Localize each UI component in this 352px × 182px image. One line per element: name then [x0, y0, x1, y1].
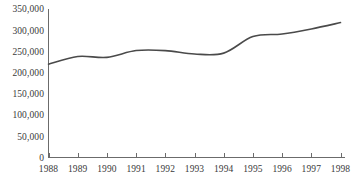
- y-axis-tick-label: 150,000: [12, 89, 44, 99]
- y-axis-tick-label: 0: [39, 153, 44, 163]
- x-axis-tick-labels: 1988198919901991199219931994199519961997…: [39, 164, 351, 174]
- x-axis-tick-label: 1989: [68, 164, 88, 174]
- y-axis-tick-label: 200,000: [12, 68, 44, 78]
- y-axis-tick-label: 350,000: [12, 4, 44, 14]
- line-chart: 050,000100,000150,000200,000250,000300,0…: [0, 0, 352, 182]
- y-axis-tick-label: 100,000: [12, 110, 44, 120]
- x-axis-tick-label: 1990: [97, 164, 117, 174]
- y-axis-tick-label: 250,000: [12, 47, 44, 57]
- axis-tick-marks: [50, 153, 342, 158]
- x-axis-tick-label: 1997: [302, 164, 322, 174]
- data-series-line: [49, 23, 341, 65]
- chart-canvas: 050,000100,000150,000200,000250,000300,0…: [0, 0, 352, 182]
- x-axis-tick-label: 1995: [243, 164, 263, 174]
- x-axis-tick-label: 1998: [331, 164, 351, 174]
- x-axis-tick-label: 1993: [185, 164, 205, 174]
- x-axis-tick-label: 1988: [39, 164, 59, 174]
- x-axis-tick-label: 1994: [214, 164, 234, 174]
- x-axis-tick-label: 1992: [156, 164, 176, 174]
- x-axis-tick-label: 1991: [126, 164, 146, 174]
- x-axis-tick-label: 1996: [272, 164, 292, 174]
- y-axis-tick-labels: 050,000100,000150,000200,000250,000300,0…: [12, 4, 44, 163]
- y-axis-tick-label: 300,000: [12, 26, 44, 36]
- y-axis-tick-label: 50,000: [17, 132, 44, 142]
